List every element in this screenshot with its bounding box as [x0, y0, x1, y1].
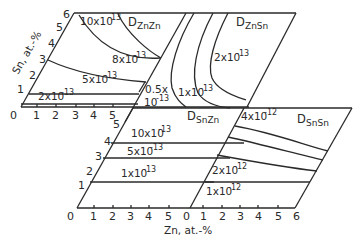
- svg-text:4: 4: [104, 135, 111, 148]
- svg-text:1: 1: [78, 179, 85, 192]
- svg-text:1: 1: [17, 83, 24, 96]
- svg-text:SnSn: SnSn: [306, 118, 329, 128]
- svg-text:-13: -13: [150, 143, 163, 152]
- x-axis-label: Zn, at.-%: [164, 224, 212, 236]
- title-sn-zn: D SnZn: [187, 109, 219, 125]
- svg-text:D: D: [236, 15, 245, 29]
- svg-text:2: 2: [109, 210, 116, 223]
- svg-text:D: D: [187, 109, 196, 123]
- svg-text:1: 1: [200, 210, 207, 223]
- svg-text:6: 6: [63, 8, 70, 21]
- label-sn-zn-5e-13: 5x10 -13: [127, 143, 163, 157]
- svg-text:D: D: [297, 112, 306, 126]
- svg-text:-13: -13: [61, 88, 74, 97]
- svg-text:4: 4: [255, 210, 262, 223]
- svg-text:6: 6: [293, 210, 300, 223]
- svg-text:0: 0: [67, 210, 74, 223]
- svg-text:D: D: [128, 15, 137, 29]
- svg-text:-12: -12: [264, 108, 277, 117]
- svg-text:4: 4: [90, 109, 97, 122]
- svg-text:5: 5: [56, 21, 63, 34]
- svg-text:-13: -13: [158, 125, 171, 134]
- svg-text:5: 5: [165, 210, 172, 223]
- svg-text:SnZn: SnZn: [196, 115, 219, 125]
- title-sn-sn: D SnSn: [297, 112, 329, 128]
- svg-text:0: 0: [10, 109, 17, 122]
- svg-text:-12: -12: [228, 183, 241, 192]
- svg-text:-13: -13: [200, 84, 213, 93]
- svg-text:-13: -13: [156, 94, 169, 103]
- svg-text:0: 0: [183, 210, 190, 223]
- svg-text:-13: -13: [108, 13, 121, 22]
- svg-text:2: 2: [219, 210, 226, 223]
- svg-text:1: 1: [90, 210, 97, 223]
- svg-text:2: 2: [86, 165, 93, 178]
- svg-text:-12: -12: [234, 162, 247, 171]
- label-zn-zn-0.5e-13: 0.5x 10 -13: [144, 83, 169, 108]
- svg-text:5: 5: [113, 118, 120, 131]
- label-sn-zn-10e-13: 10x10 -13: [131, 125, 171, 139]
- top-left-x-ticks: 0 1 2 3 4 5: [10, 109, 116, 122]
- label-zn-zn-5e-13: 5x10 -13: [82, 71, 117, 85]
- svg-text:-13: -13: [133, 51, 146, 60]
- svg-text:-13: -13: [143, 165, 156, 174]
- svg-text:3: 3: [39, 53, 46, 66]
- svg-text:1: 1: [33, 109, 40, 122]
- svg-text:-13: -13: [104, 71, 117, 80]
- bottom-right-x-ticks: 0 1 2 3 4 5 6: [183, 210, 300, 223]
- svg-text:5: 5: [275, 210, 282, 223]
- diffusion-diagram: 1 2 3 4 5 6 0 1 2 3 4 5 Sn, at.-% D ZnZn…: [0, 0, 362, 238]
- title-zn-sn: D ZnSn: [236, 15, 268, 31]
- svg-text:ZnZn: ZnZn: [137, 21, 161, 31]
- label-zn-sn-1e-13: 1x10 -13: [178, 84, 213, 98]
- svg-text:ZnSn: ZnSn: [245, 21, 268, 31]
- svg-text:3: 3: [237, 210, 244, 223]
- label-zn-zn-2e-13: 2x10 -13: [38, 88, 74, 102]
- label-sn-sn-4e-12: 4x10 -12: [241, 108, 277, 122]
- bottom-left-x-ticks: 0 1 2 3 4 5: [67, 210, 172, 223]
- label-sn-zn-1e-13: 1x10 -13: [121, 165, 156, 179]
- bottom-left-y-ticks: 1 2 3 4 5: [78, 118, 120, 192]
- svg-text:3: 3: [127, 210, 134, 223]
- svg-text:2: 2: [52, 109, 59, 122]
- svg-text:4: 4: [145, 210, 152, 223]
- label-zn-zn-8e-13: 8x10 -13: [112, 51, 146, 65]
- label-zn-sn-2e-13: 2x10 -13: [214, 49, 249, 63]
- label-zn-zn-10e-13: 10x10 -13: [80, 13, 121, 27]
- label-sn-sn-1e-12: 1x10 -12: [206, 183, 241, 197]
- label-sn-sn-2e-12: 2x10 -12: [212, 162, 247, 176]
- svg-text:3: 3: [95, 150, 102, 163]
- title-zn-zn: D ZnZn: [128, 15, 161, 31]
- svg-text:2: 2: [29, 69, 36, 82]
- svg-text:-13: -13: [236, 49, 249, 58]
- svg-text:4: 4: [48, 37, 55, 50]
- svg-text:3: 3: [72, 109, 79, 122]
